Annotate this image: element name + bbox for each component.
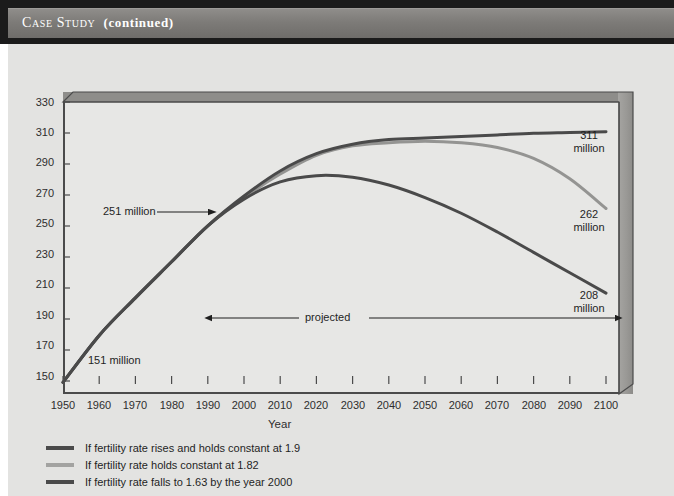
y-tick-label: 330 [20,96,54,108]
x-tick-label: 2040 [369,399,409,411]
x-tick-label: 1980 [152,399,192,411]
x-tick-label: 2050 [405,399,445,411]
end-label-208-value: 208 [563,289,615,302]
end-label-311: 311 million [563,129,615,154]
legend-swatch-icon [46,463,74,467]
legend-label: If fertility rate rises and holds consta… [85,442,300,454]
y-tick-label: 170 [20,339,54,351]
x-tick-label: 2100 [586,399,626,411]
legend-label: If fertility rate falls to 1.63 by the y… [85,476,292,488]
x-tick-label: 1990 [188,399,228,411]
end-label-311-value: 311 [563,129,615,142]
end-label-262: 262 million [563,208,615,233]
y-tick-label: 310 [20,126,54,138]
x-tick-label: 1970 [115,399,155,411]
x-tick-label: 2010 [260,399,300,411]
chart-legend: If fertility rate rises and holds consta… [46,440,300,491]
x-tick-label: 2000 [224,399,264,411]
start-point-annotation: 151 million [88,354,141,366]
y-tick-label: 290 [20,156,54,168]
chart-area: Population (millions) 330 310 290 270 25… [8,44,674,496]
plot-svg [63,92,633,394]
end-label-262-unit: million [563,221,615,234]
legend-item: If fertility rate falls to 1.63 by the y… [46,474,300,489]
page: Case Study (continued) Population (milli… [0,0,674,496]
x-tick-marks [63,376,606,384]
legend-item: If fertility rate holds constant at 1.82 [46,457,300,472]
legend-swatch-icon [46,480,74,484]
end-label-311-unit: million [563,142,615,155]
series-line [63,132,606,383]
legend-swatch-icon [46,446,74,450]
x-tick-label: 2090 [550,399,590,411]
legend-label: If fertility rate holds constant at 1.82 [85,459,259,471]
header-continued-text: (continued) [104,15,174,30]
series-group [63,132,606,383]
y-tick-label: 270 [20,187,54,199]
projected-label: projected [305,311,350,323]
y-tick-label: 210 [20,278,54,290]
case-study-header-title: Case Study (continued) [22,15,174,31]
figure-sheet: Population (millions) 330 310 290 270 25… [8,44,674,496]
x-tick-label: 2020 [296,399,336,411]
x-tick-label: 2080 [514,399,554,411]
plot-3d-block: projected 251 million 151 million 311 mi… [63,92,633,394]
end-label-208: 208 million [563,289,615,314]
y-tick-marks [63,102,70,381]
legend-item: If fertility rate rises and holds consta… [46,440,300,455]
x-tick-label: 2030 [333,399,373,411]
end-label-262-value: 262 [563,208,615,221]
series-line [63,141,606,382]
y-tick-label: 250 [20,217,54,229]
case-study-header-band: Case Study (continued) [0,0,674,44]
y-tick-label: 190 [20,309,54,321]
y-tick-label: 150 [20,370,54,382]
x-axis-title: Year [268,418,291,430]
x-tick-label: 1950 [43,399,83,411]
case-study-header-bar: Case Study (continued) [8,8,674,38]
end-label-208-unit: million [563,302,615,315]
x-tick-label: 2060 [441,399,481,411]
header-title-text: Case Study [22,15,95,30]
mid-point-annotation: 251 million [103,205,156,217]
x-tick-label: 2070 [477,399,517,411]
y-tick-label: 230 [20,248,54,260]
x-tick-label: 1960 [79,399,119,411]
plot-bevel-outline [63,92,633,394]
